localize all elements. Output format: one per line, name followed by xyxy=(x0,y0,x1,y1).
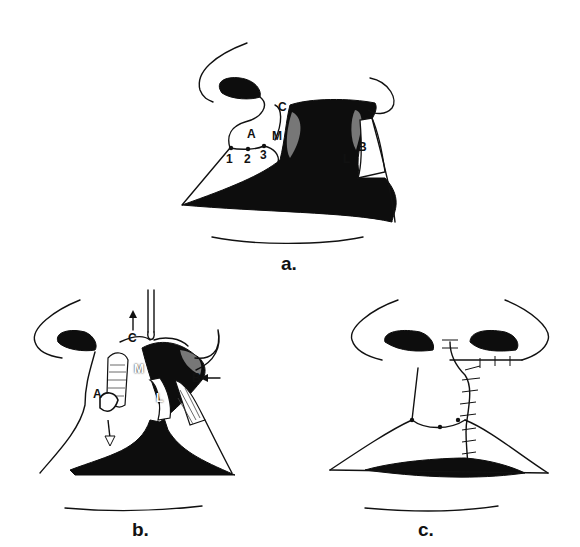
up-arrow-icon xyxy=(129,310,137,318)
philtral-column xyxy=(412,368,418,420)
panel-c: c. xyxy=(290,280,580,547)
label-b-A: A xyxy=(93,388,102,400)
nose-contour-right xyxy=(505,300,548,360)
vermilion xyxy=(365,458,525,477)
suture-line xyxy=(450,342,470,475)
nostril-left xyxy=(57,330,96,350)
point-2 xyxy=(246,147,250,151)
nostril-left xyxy=(385,330,434,351)
caption-c: c. xyxy=(418,520,434,539)
caption-b: b. xyxy=(132,520,149,539)
arrow-down-shaft xyxy=(108,420,110,438)
nostril-right xyxy=(470,330,518,351)
panel-a: A C M L B 1 2 3 a. xyxy=(0,0,580,280)
nostril-left xyxy=(219,78,260,99)
down-arrow-icon xyxy=(105,436,115,446)
chin-contour xyxy=(212,237,363,243)
label-a-point-3: 3 xyxy=(260,149,267,161)
label-a-point-2: 2 xyxy=(244,153,251,165)
columella-stem xyxy=(148,290,154,332)
label-a-B: B xyxy=(358,141,367,153)
panel-c-drawing xyxy=(290,280,580,547)
label-a-point-1: 1 xyxy=(226,153,233,165)
label-a-A: A xyxy=(247,128,256,140)
a-flap-rotation xyxy=(100,393,118,411)
point-right xyxy=(456,418,460,422)
label-b-M: M xyxy=(134,363,144,375)
label-a-L: L xyxy=(343,153,350,165)
label-b-C: C xyxy=(128,332,137,344)
cleft-gap xyxy=(70,342,235,475)
label-a-C: C xyxy=(278,101,287,113)
label-b-B: B xyxy=(192,372,201,384)
caption-a: a. xyxy=(281,254,297,273)
nose-contour-left xyxy=(352,300,398,360)
label-b-L: L xyxy=(156,392,163,404)
chin-contour xyxy=(365,506,498,511)
label-a-M: M xyxy=(272,130,282,142)
panel-a-drawing xyxy=(0,0,580,280)
lip-left-edge xyxy=(40,352,95,473)
panel-b: A C M L B b. xyxy=(0,280,290,547)
panel-b-drawing xyxy=(0,280,290,547)
chin-contour xyxy=(65,506,202,511)
